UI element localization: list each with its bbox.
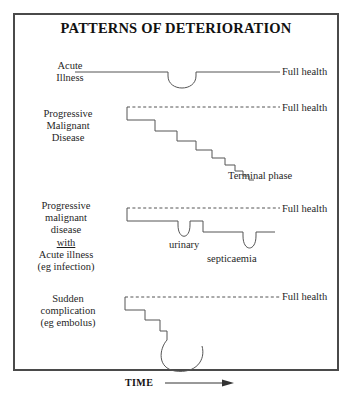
panel-label-line-with: with bbox=[18, 237, 114, 249]
panel-label-line: Malignant bbox=[20, 120, 116, 132]
baseline-label-full-health-4: Full health bbox=[282, 291, 327, 302]
panel-label-sudden-complication: Sudden complication (eg embolus) bbox=[20, 293, 116, 330]
panel-label-line: (eg infection) bbox=[18, 261, 114, 273]
panel-label-line: malignant bbox=[18, 212, 114, 224]
panel-label-line: Progressive bbox=[20, 108, 116, 120]
panel-label-line: Illness bbox=[22, 72, 118, 84]
baseline-label-full-health-1: Full health bbox=[282, 66, 327, 77]
panel-label-acute-illness: Acute Illness bbox=[22, 60, 118, 84]
baseline-label-full-health-3: Full health bbox=[282, 203, 327, 214]
panel-label-line: complication bbox=[20, 305, 116, 317]
time-axis-label: TIME bbox=[125, 377, 153, 388]
panel-label-line: disease bbox=[18, 224, 114, 236]
terminal-phase-label: Terminal phase bbox=[228, 170, 292, 181]
panel-label-line: Sudden bbox=[20, 293, 116, 305]
panel-label-progressive-with-acute: Progressive malignant disease with Acute… bbox=[18, 200, 114, 273]
baseline-label-full-health-2: Full health bbox=[282, 102, 327, 113]
dip-label-septicaemia: septicaemia bbox=[207, 253, 257, 264]
page-title: PATTERNS OF DETERIORATION bbox=[13, 20, 339, 37]
panel-label-progressive-malignant-disease: Progressive Malignant Disease bbox=[20, 108, 116, 145]
panel-label-line: (eg embolus) bbox=[20, 317, 116, 329]
dip-label-urinary: urinary bbox=[169, 239, 199, 250]
panel-label-line: Disease bbox=[20, 132, 116, 144]
panel-label-line: Acute illness bbox=[18, 249, 114, 261]
right-arrow-icon bbox=[165, 380, 234, 387]
panel-label-line: Progressive bbox=[18, 200, 114, 212]
patterns-of-deterioration-figure: PATTERNS OF DETERIORATION Acute Illness … bbox=[0, 0, 357, 400]
panel-label-line: Acute bbox=[22, 60, 118, 72]
